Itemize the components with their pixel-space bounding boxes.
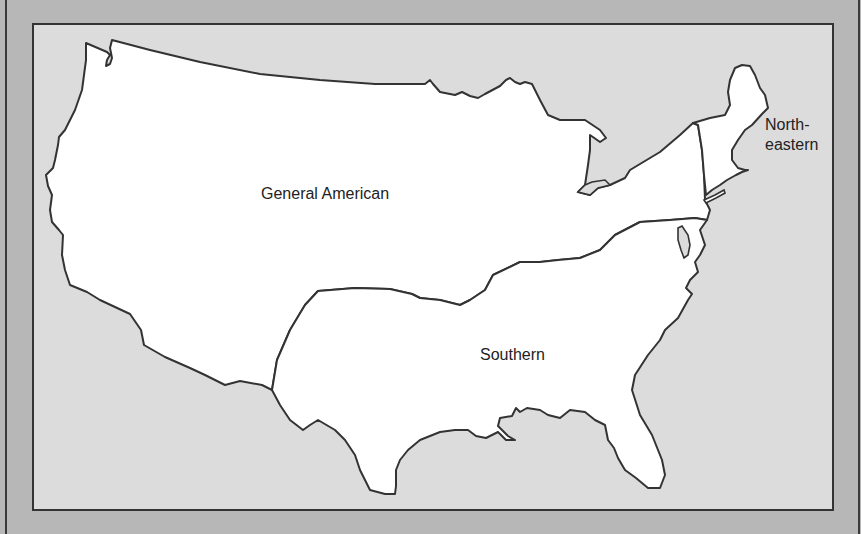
label-northeastern-line2: eastern bbox=[765, 135, 835, 155]
map-figure: General American Southern North- eastern bbox=[0, 0, 861, 534]
us-map bbox=[0, 0, 861, 534]
label-northeastern: North- eastern bbox=[765, 115, 835, 155]
label-northeastern-line1: North- bbox=[765, 115, 835, 135]
region-northeastern bbox=[693, 65, 768, 195]
label-general-american: General American bbox=[261, 184, 389, 204]
label-southern: Southern bbox=[480, 345, 545, 365]
